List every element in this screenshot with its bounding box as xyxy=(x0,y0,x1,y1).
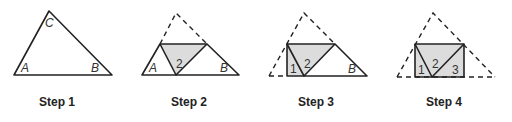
vertex-label-b: B xyxy=(91,61,99,75)
vertex-label-b: B xyxy=(220,61,228,75)
vertex-label-b: B xyxy=(348,62,356,76)
step-1-figure: A B C Step 1 xyxy=(14,11,112,109)
angle-label-1: 1 xyxy=(418,63,425,77)
step-3-figure: 1 2 B Step 3 xyxy=(269,13,367,109)
step-4-figure: 1 2 3 Step 4 xyxy=(397,13,495,109)
step-4-label: Step 4 xyxy=(426,95,462,109)
angle-label-2: 2 xyxy=(432,57,439,71)
vertex-label-a: A xyxy=(148,61,157,75)
folded-triangle-shade xyxy=(160,44,207,75)
angle-label-2: 2 xyxy=(304,57,311,71)
step-1-label: Step 1 xyxy=(39,95,75,109)
angle-label-1: 1 xyxy=(290,62,297,76)
original-apex-dashed xyxy=(160,13,207,44)
step-2-figure: A 2 B Step 2 xyxy=(142,13,239,109)
vertex-label-a: A xyxy=(20,61,29,75)
step-3-label: Step 3 xyxy=(298,95,334,109)
angle-label-3: 3 xyxy=(452,63,459,77)
angle-label-2: 2 xyxy=(176,57,183,71)
folding-triangle-diagram: A B C Step 1 A 2 B Step 2 1 2 B Step 3 1… xyxy=(0,0,512,122)
step-2-label: Step 2 xyxy=(171,95,207,109)
vertex-label-c: C xyxy=(45,16,54,30)
